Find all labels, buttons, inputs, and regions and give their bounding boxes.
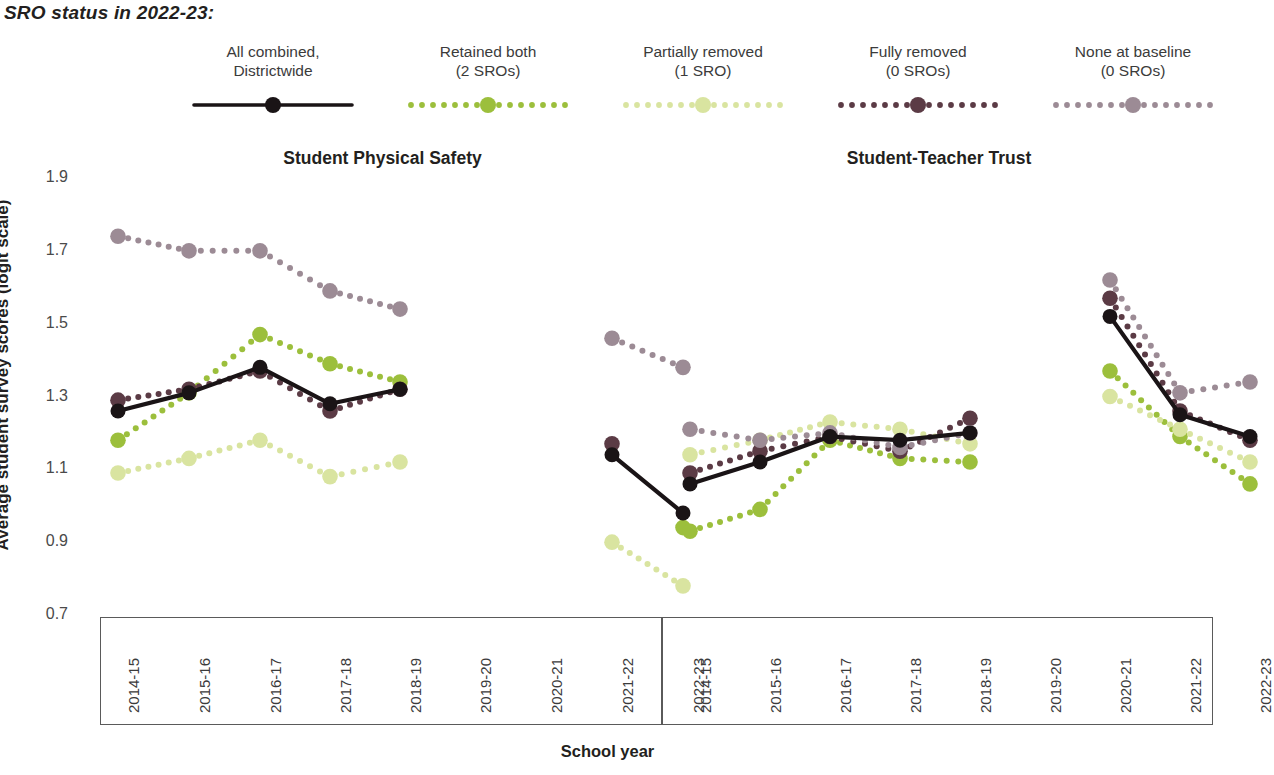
series-dot: [377, 374, 383, 380]
series-dot: [1113, 305, 1119, 311]
data-point-marker[interactable]: [604, 534, 620, 550]
data-point-marker[interactable]: [682, 447, 698, 463]
data-point-marker[interactable]: [962, 411, 978, 427]
series-dot: [787, 429, 793, 435]
series-dot: [857, 445, 863, 451]
data-point-marker[interactable]: [1102, 272, 1118, 288]
data-point-marker[interactable]: [604, 330, 620, 346]
series-dot: [367, 371, 373, 377]
x-axis-tick: 2020-21: [1117, 658, 1134, 713]
data-point-marker[interactable]: [322, 356, 338, 372]
data-point-marker[interactable]: [893, 433, 908, 448]
series-dot: [1130, 333, 1136, 339]
data-point-marker[interactable]: [322, 469, 338, 485]
legend: All combined, Districtwide Retained both…: [108, 42, 1208, 137]
data-point-marker[interactable]: [1242, 454, 1258, 470]
series-dot: [151, 414, 157, 420]
series-dot: [1189, 388, 1195, 394]
data-point-marker[interactable]: [1172, 421, 1188, 437]
series-dot: [850, 421, 856, 427]
x-axis-tick: 2014-15: [697, 658, 714, 713]
y-axis-label: Average student survey scores (logit sca…: [0, 140, 23, 610]
series-dot: [133, 425, 139, 431]
data-point-marker[interactable]: [182, 385, 197, 400]
data-point-marker[interactable]: [823, 429, 838, 444]
series-dot: [797, 427, 803, 433]
data-point-marker[interactable]: [1102, 363, 1118, 379]
series-dot: [297, 348, 303, 354]
data-point-marker[interactable]: [111, 404, 126, 419]
series-dot: [627, 550, 633, 556]
legend-item-label: Partially removed (1 SRO): [598, 42, 808, 80]
series-dot: [287, 344, 293, 350]
data-point-marker[interactable]: [393, 382, 408, 397]
series-dot: [1197, 436, 1203, 442]
series-partially-removed-1-sro: [110, 432, 691, 593]
legend-item-label: None at baseline (0 SROs): [1028, 42, 1238, 80]
legend-item-all_combined[interactable]: All combined, Districtwide: [168, 42, 378, 80]
legend-item-fully_removed[interactable]: Fully removed (0 SROs): [813, 42, 1023, 80]
y-axis-tick: 1.1: [22, 459, 68, 477]
data-point-marker[interactable]: [392, 454, 408, 470]
legend-item-partially_removed[interactable]: Partially removed (1 SRO): [598, 42, 808, 80]
series-segment: [260, 367, 330, 403]
data-point-marker[interactable]: [752, 432, 768, 448]
series-dot: [1148, 343, 1154, 349]
data-point-marker[interactable]: [682, 421, 698, 437]
series-dot: [337, 363, 343, 369]
data-point-marker[interactable]: [1172, 385, 1188, 401]
data-point-marker[interactable]: [963, 425, 978, 440]
series-dot: [1123, 383, 1129, 389]
data-point-marker[interactable]: [110, 465, 126, 481]
data-point-marker[interactable]: [322, 283, 338, 299]
data-point-marker[interactable]: [1243, 429, 1258, 444]
series-dot: [639, 348, 645, 354]
chart-panel-student-teacher-trust: [662, 170, 1213, 630]
data-point-marker[interactable]: [323, 396, 338, 411]
series-dot: [796, 468, 802, 474]
series-dot: [747, 510, 753, 516]
data-point-marker[interactable]: [1242, 476, 1258, 492]
data-point-marker[interactable]: [753, 455, 768, 470]
data-point-marker[interactable]: [1103, 309, 1118, 324]
data-point-marker[interactable]: [1242, 374, 1258, 390]
data-point-marker[interactable]: [962, 454, 978, 470]
series-dot: [267, 336, 273, 342]
legend-item-none_at_baseline[interactable]: None at baseline (0 SROs): [1028, 42, 1238, 80]
data-point-marker[interactable]: [752, 502, 768, 518]
series-dot: [267, 254, 273, 260]
data-point-marker[interactable]: [252, 327, 268, 343]
series-dot: [176, 457, 182, 463]
data-point-marker[interactable]: [605, 447, 620, 462]
data-point-marker[interactable]: [252, 243, 268, 259]
data-point-marker[interactable]: [181, 243, 197, 259]
x-axis-tick: 2016-17: [267, 658, 284, 713]
series-dot: [804, 432, 810, 438]
data-point-marker[interactable]: [392, 301, 408, 317]
series-dot: [707, 522, 713, 528]
series-dot: [717, 461, 723, 467]
series-dot: [722, 444, 728, 450]
series-dot: [297, 458, 303, 464]
data-point-marker[interactable]: [683, 476, 698, 491]
data-point-marker[interactable]: [1173, 407, 1188, 422]
data-point-marker[interactable]: [181, 451, 197, 467]
series-dot: [957, 420, 963, 426]
data-point-marker[interactable]: [682, 523, 698, 539]
x-axis-tick: 2015-16: [196, 658, 213, 713]
series-dot: [198, 248, 204, 254]
data-point-marker[interactable]: [1102, 290, 1118, 306]
series-dot: [347, 293, 353, 299]
series-dot: [788, 476, 794, 482]
legend-item-retained_both[interactable]: Retained both (2 SROs): [383, 42, 593, 80]
series-dot: [267, 442, 273, 448]
data-point-marker[interactable]: [253, 360, 268, 375]
data-point-marker[interactable]: [110, 432, 126, 448]
series-dot: [247, 440, 253, 446]
series-none-at-baseline-0-sros: [110, 228, 691, 375]
data-point-marker[interactable]: [110, 228, 126, 244]
data-point-marker[interactable]: [1102, 389, 1118, 405]
series-dot: [920, 440, 926, 446]
data-point-marker[interactable]: [252, 432, 268, 448]
series-dot: [1130, 315, 1136, 321]
